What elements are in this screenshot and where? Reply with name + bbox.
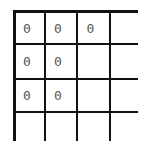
grid-cell-r0-c3[interactable] [111,13,141,43]
grid-cell-r1-c2[interactable] [78,45,109,78]
grid-cell-r1-c0[interactable]: 0 [16,45,44,78]
grid-cell-r0-c0[interactable]: 0 [16,13,44,43]
grid-cell-r3-c1[interactable] [46,113,76,144]
grid-cell-r2-c3[interactable] [111,80,141,111]
grid-cell-r1-c1[interactable]: 0 [46,45,76,78]
grid-cell-r2-c0[interactable]: 0 [16,80,44,111]
grid-cell-r3-c0[interactable] [16,113,44,144]
grid-cell-r2-c1[interactable]: 0 [46,80,76,111]
grid-board: 0 0 0 0 0 0 0 [13,10,138,141]
grid-cell-r1-c3[interactable] [111,45,141,78]
grid-cell-r0-c2[interactable]: 0 [78,13,109,43]
grid-cell-r2-c2[interactable] [78,80,109,111]
grid-cell-r3-c3[interactable] [111,113,141,144]
grid-cell-r0-c1[interactable]: 0 [46,13,76,43]
grid-cell-r3-c2[interactable] [78,113,109,144]
